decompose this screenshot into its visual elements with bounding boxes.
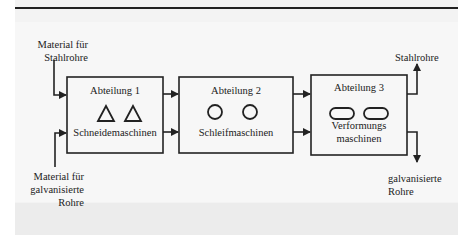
circle-icon — [208, 105, 222, 119]
department-1-machines: Schneidemaschinen — [67, 126, 163, 139]
pill-icon — [330, 108, 354, 119]
department-3-title: Abteilung 3 — [311, 81, 407, 94]
triangle-icon — [125, 106, 141, 121]
input-arrow-bottom — [55, 133, 66, 167]
output-label-steel: Stahlrohre — [395, 51, 439, 64]
department-1-title: Abteilung 1 — [67, 84, 163, 97]
pill-icon — [364, 108, 388, 119]
department-3-machines: Verformungs maschinen — [311, 119, 407, 145]
department-2-machines: Schleifmaschinen — [179, 126, 293, 139]
triangle-icon — [98, 106, 114, 121]
input-arrow-top — [54, 60, 66, 95]
output-label-galvanized: galvanisierte Rohre — [388, 172, 442, 198]
circle-icon — [243, 105, 257, 119]
output-arrow-top — [407, 64, 417, 94]
input-label-galvanized: Material für galvanisierte Rohre — [14, 170, 84, 209]
department-2-title: Abteilung 2 — [179, 84, 293, 97]
output-arrow-bottom — [407, 132, 417, 162]
input-label-steel: Material für Stahlrohre — [18, 38, 88, 64]
